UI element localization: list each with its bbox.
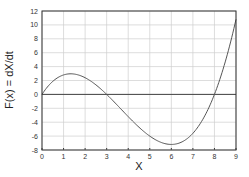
x-axis-label: X [135,160,143,172]
x-tick-label: 6 [169,153,173,160]
x-tick-label: 2 [83,153,87,160]
y-tick-label: -8 [32,147,38,154]
x-tick-label: 8 [212,153,216,160]
x-tick-label: 0 [40,153,44,160]
y-tick-label: 8 [34,35,38,42]
data-curve [42,19,236,144]
y-tick-label: -6 [32,133,38,140]
y-tick-label: 4 [34,63,38,70]
y-tick-label: 2 [34,77,38,84]
y-tick-label: 6 [34,49,38,56]
x-tick-label: 1 [62,153,66,160]
y-tick-label: -2 [32,105,38,112]
y-tick-label: 0 [34,91,38,98]
x-tick-label: 5 [148,153,152,160]
x-tick-label: 3 [105,153,109,160]
x-tick-label: 7 [191,153,195,160]
y-tick-label: 10 [30,21,38,28]
x-tick-label: 9 [234,153,238,160]
grid-lines [42,11,236,150]
chart: 0123456789 -8-6-4-2024681012 X F(x) = dX… [0,0,249,177]
x-tick-labels: 0123456789 [40,153,238,160]
y-axis-label: F(x) = dX/dt [3,51,15,109]
x-tick-label: 4 [126,153,130,160]
y-tick-label: 12 [30,8,38,15]
y-tick-labels: -8-6-4-2024681012 [30,8,38,154]
y-tick-label: -4 [32,119,38,126]
